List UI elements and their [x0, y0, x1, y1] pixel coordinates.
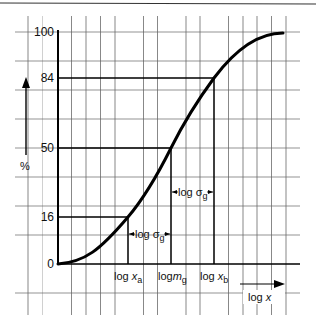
svg-text:logσg: logσg	[178, 186, 208, 201]
cumulative-distribution-chart: 100 84 50 16 0 % logxa logmg logxb logσg…	[0, 0, 316, 329]
sigma-annotation-upper: logσg	[172, 186, 213, 201]
svg-text:logσg: logσg	[135, 228, 165, 243]
y-tick-100: 100	[34, 25, 54, 39]
x-tick-log-mg: logmg	[158, 270, 187, 285]
y-axis-label: %	[20, 160, 30, 172]
x-tick-log-xb: logxb	[200, 270, 228, 285]
y-tick-50: 50	[41, 141, 55, 155]
y-tick-0: 0	[47, 257, 54, 271]
y-tick-84: 84	[41, 71, 55, 85]
x-axis-label: logx	[248, 291, 272, 303]
sigma-annotation-lower: logσg	[129, 228, 170, 243]
y-axis-arrow-icon	[22, 77, 30, 155]
y-tick-16: 16	[41, 210, 55, 224]
x-axis-arrow-icon	[240, 280, 285, 288]
top-border	[0, 3, 316, 4]
x-tick-log-xa: logxa	[114, 270, 142, 285]
